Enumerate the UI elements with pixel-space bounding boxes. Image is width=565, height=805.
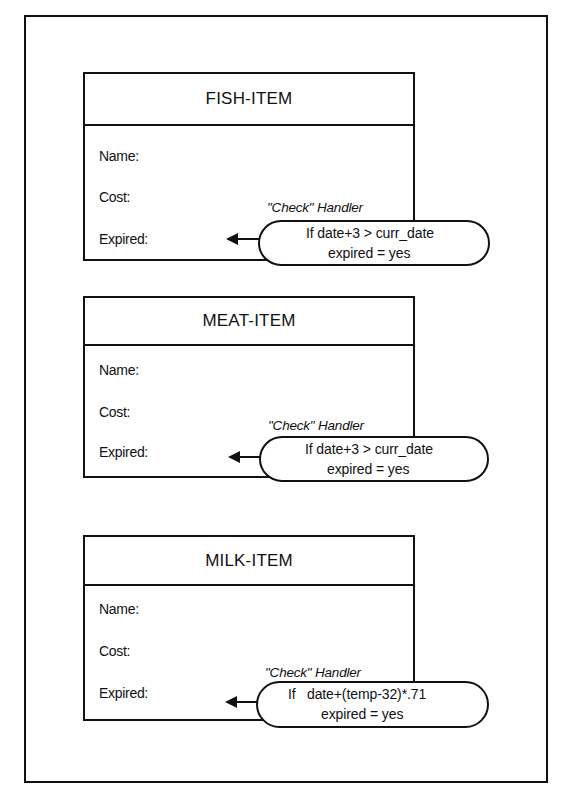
field-expired: Expired: [99, 231, 148, 247]
check-handler-bubble: If date+3 > curr_date expired = yes [258, 220, 490, 266]
object-title: FISH-ITEM [85, 74, 413, 126]
field-cost: Cost: [99, 189, 130, 205]
object-title: MEAT-ITEM [85, 298, 413, 346]
handler-label: "Check" Handler [268, 418, 364, 433]
field-expired: Expired: [99, 444, 148, 460]
field-expired: Expired: [99, 685, 148, 701]
check-handler-bubble: If date+(temp-32)*.71 expired = yes [256, 681, 489, 728]
check-handler-bubble: If date+3 > curr_date expired = yes [259, 436, 489, 482]
arrow-left-icon [226, 233, 260, 245]
arrow-left-icon [225, 696, 259, 708]
handler-action: expired = yes [321, 705, 403, 724]
field-name: Name: [99, 148, 139, 164]
handler-label: "Check" Handler [267, 200, 363, 215]
handler-action: expired = yes [327, 460, 409, 479]
field-name: Name: [99, 362, 139, 378]
object-title: MILK-ITEM [85, 537, 413, 586]
handler-action: expired = yes [328, 244, 410, 263]
arrow-left-icon [228, 451, 262, 463]
handler-condition: If date+(temp-32)*.71 [288, 685, 426, 704]
field-cost: Cost: [99, 404, 130, 420]
handler-condition: If date+3 > curr_date [306, 224, 434, 243]
field-name: Name: [99, 601, 139, 617]
handler-label: "Check" Handler [265, 665, 361, 680]
handler-condition: If date+3 > curr_date [305, 440, 433, 459]
field-cost: Cost: [99, 643, 130, 659]
